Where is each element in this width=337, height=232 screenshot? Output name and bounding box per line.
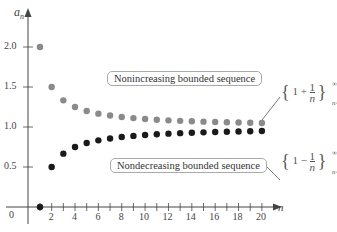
point-upper-sequence [165, 117, 171, 123]
point-lower-sequence [95, 137, 101, 143]
point-lower-sequence [165, 130, 171, 136]
point-upper-sequence [177, 118, 183, 124]
point-lower-sequence [37, 204, 43, 210]
origin-label: 0 [9, 209, 14, 220]
formula-upper: { 1 + 1 n } ∞ n=1 [281, 82, 327, 103]
point-lower-sequence [189, 129, 195, 135]
point-upper-sequence [60, 97, 66, 103]
point-lower-sequence [72, 144, 78, 150]
point-upper-sequence [200, 118, 206, 124]
point-upper-sequence [48, 84, 54, 90]
point-upper-sequence [189, 118, 195, 124]
x-tick-label: 20 [256, 211, 266, 222]
point-upper-sequence [130, 115, 136, 121]
y-axis-label: an [14, 5, 24, 21]
point-lower-sequence [130, 133, 136, 139]
point-upper-sequence [72, 104, 78, 110]
y-tick-label: 2.0 [4, 40, 17, 51]
x-tick-label: 12 [162, 211, 172, 222]
x-tick-label: 8 [119, 211, 124, 222]
y-tick-label: 1.5 [4, 80, 17, 91]
nonincreasing-label-box: Nonincreasing bounded sequence [107, 71, 262, 86]
x-tick-label: 16 [209, 211, 219, 222]
nondecreasing-label-box: Nondecreasing bounded sequence [110, 158, 267, 173]
y-tick-label: 0.5 [4, 160, 17, 171]
point-lower-sequence [154, 131, 160, 137]
point-lower-sequence [48, 164, 54, 170]
sequence-plot [0, 0, 337, 232]
point-lower-sequence [177, 130, 183, 136]
point-lower-sequence [235, 128, 241, 134]
y-tick-label: 1.0 [4, 120, 17, 131]
point-upper-sequence [84, 108, 90, 114]
point-lower-sequence [142, 132, 148, 138]
point-upper-sequence [95, 110, 101, 116]
point-upper-sequence [259, 120, 265, 126]
x-tick-label: 10 [139, 211, 149, 222]
point-upper-sequence [37, 44, 43, 50]
point-upper-sequence [235, 119, 241, 125]
leader-line-upper [262, 97, 280, 120]
point-upper-sequence [247, 120, 253, 126]
x-axis-label: n [278, 201, 284, 213]
point-lower-sequence [259, 128, 265, 134]
y-axis-arrow-icon [25, 8, 32, 17]
x-tick-label: 4 [72, 211, 77, 222]
point-lower-sequence [212, 129, 218, 135]
point-lower-sequence [84, 140, 90, 146]
point-upper-sequence [224, 119, 230, 125]
point-upper-sequence [154, 117, 160, 123]
point-lower-sequence [200, 129, 206, 135]
formula-lower: { 1 − 1 n } ∞ n=1 [281, 151, 327, 172]
x-tick-label: 14 [186, 211, 196, 222]
point-lower-sequence [107, 135, 113, 141]
point-lower-sequence [247, 128, 253, 134]
point-lower-sequence [60, 150, 66, 156]
x-tick-label: 2 [49, 211, 54, 222]
point-upper-sequence [119, 114, 125, 120]
point-upper-sequence [212, 119, 218, 125]
point-lower-sequence [119, 134, 125, 140]
point-lower-sequence [224, 129, 230, 135]
point-upper-sequence [142, 116, 148, 122]
point-upper-sequence [107, 112, 113, 118]
x-tick-label: 6 [95, 211, 100, 222]
x-tick-label: 18 [233, 211, 243, 222]
